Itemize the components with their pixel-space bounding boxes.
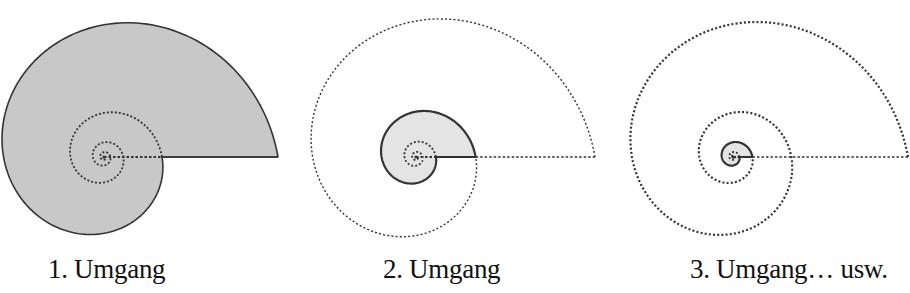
caption-first-whorl: 1. Umgang [48,254,165,285]
dotted-outer-whorl [630,22,908,235]
caption-second-whorl: 2. Umgang [383,254,500,285]
shell-third-whorl [630,22,908,235]
spiral-center-dot [102,155,105,158]
shaded-whorl [2,23,278,235]
caption-third-whorl: 3. Umgang… usw. [690,254,888,285]
spiral-shell-diagram [0,0,910,293]
spiral-center-dot [731,155,734,158]
shaded-whorl [381,111,476,184]
shell-second-whorl [311,19,595,237]
shell-first-whorl [2,23,278,235]
spiral-center-dot [414,155,417,158]
